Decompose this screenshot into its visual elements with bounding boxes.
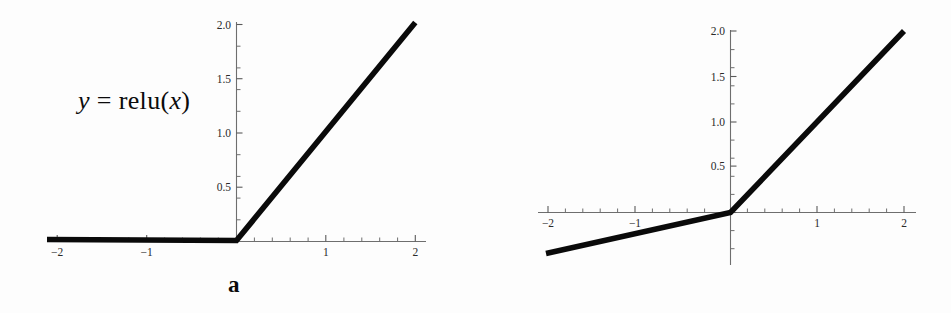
y-tick-label: 2.0 (217, 19, 232, 31)
formula-arg: x (169, 86, 181, 115)
x-tick-label: 2 (901, 217, 907, 229)
x-tick-label: −2 (51, 246, 63, 258)
x-tick-label: 2 (412, 246, 418, 258)
y-tick-label: 2.0 (711, 25, 726, 37)
formula-equals: = (90, 86, 119, 115)
y-major-ticks (731, 31, 737, 213)
panel-label-a: a (228, 272, 240, 298)
formula-lhs: y (78, 86, 90, 115)
prelu-curve (546, 31, 904, 254)
relu-curve (47, 23, 415, 241)
figure-container: −2 −1 1 2 (0, 0, 951, 313)
y-tick-label: 1.5 (217, 73, 232, 85)
formula-close: ) (181, 86, 190, 115)
prelu-plot: −2 −1 1 2 (470, 0, 951, 313)
x-tick-label: 1 (323, 246, 329, 258)
x-tick-label: −1 (141, 246, 153, 258)
formula-fn: relu( (119, 86, 170, 115)
y-minor-ticks (731, 50, 735, 249)
x-tick-label: 1 (814, 217, 820, 229)
y-tick-label: 0.5 (711, 160, 726, 172)
panel-a-relu: −2 −1 1 2 (0, 0, 470, 313)
x-tick-label: −2 (542, 217, 554, 229)
relu-plot: −2 −1 1 2 (0, 0, 470, 313)
y-tick-label: 1.0 (217, 127, 232, 139)
y-tick-label: 1.0 (711, 116, 726, 128)
formula-relu: y=relu(x) (78, 86, 190, 116)
panel-b-prelu: −2 −1 1 2 (470, 0, 951, 313)
x-tick-label: −1 (629, 217, 641, 229)
y-tick-label: 0.5 (217, 181, 232, 193)
y-tick-label: 1.5 (711, 71, 726, 83)
